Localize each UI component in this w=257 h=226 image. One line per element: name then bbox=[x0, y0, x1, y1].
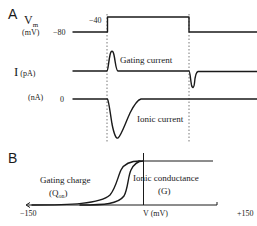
vm-unit-label: (mV) bbox=[22, 28, 40, 37]
current-unit-na-label: (nA) bbox=[28, 93, 43, 102]
x-axis-label: V (mV) bbox=[143, 209, 168, 218]
gating-charge-label: Gating charge bbox=[40, 175, 91, 185]
ionic-current-label: Ionic current bbox=[137, 114, 184, 124]
panel-b-label: B bbox=[8, 150, 17, 166]
holding-potential-label: −80 bbox=[53, 28, 66, 37]
vm-label: Vm bbox=[24, 13, 39, 29]
gating-current-label: Gating current bbox=[120, 55, 173, 65]
figure: A Vm (mV) −80 −40 I(pA) (nA) 0 Gating cu… bbox=[0, 0, 257, 226]
gating-charge-symbol: (Qon) bbox=[49, 188, 68, 199]
x-min-label: −150 bbox=[20, 209, 37, 218]
ionic-conductance-symbol: (G) bbox=[158, 186, 171, 196]
ionic-conductance-label: Ionic conductance bbox=[133, 173, 199, 183]
zero-label: 0 bbox=[60, 95, 64, 104]
step-potential-label: −40 bbox=[89, 16, 102, 25]
x-max-label: +150 bbox=[237, 209, 254, 218]
panel-a-label: A bbox=[8, 6, 18, 22]
current-label: I(pA) bbox=[14, 64, 36, 79]
